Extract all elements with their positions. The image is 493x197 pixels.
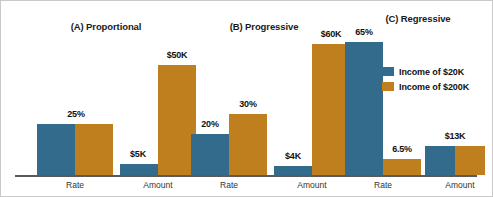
bar-label-b-amount-income20k: $4K (263, 151, 323, 161)
bar-label-c-rate-income200k: 6.5% (372, 144, 432, 154)
x-axis-baseline (15, 175, 477, 177)
bar-c-amount-income200k (455, 146, 485, 175)
bar-a-amount-income20k (120, 164, 158, 175)
bar-c-rate-income200k (383, 159, 421, 175)
legend-swatch-icon-income200k (382, 82, 394, 91)
tick-label-b-amount: Amount (282, 180, 342, 190)
bar-label-c-rate-income20k: 65% (334, 27, 394, 37)
bar-b-rate-income20k (191, 134, 229, 175)
tick-label-c-amount: Amount (430, 180, 490, 190)
bar-b-amount-income20k (274, 166, 312, 175)
bar-c-rate-income20k (345, 42, 383, 175)
tick-label-a-rate: Rate (45, 180, 105, 190)
bar-label-a-amount-income200k: $50K (147, 50, 207, 60)
tick-label-c-rate: Rate (353, 180, 413, 190)
tick-label-a-amount: Amount (128, 180, 188, 190)
bar-label-b-rate-income20k: 20% (180, 119, 240, 129)
bar-a-rate-income20k (37, 124, 75, 175)
chart-legend: Income of $20K Income of $200K (382, 65, 469, 95)
legend-item-income20k: Income of $20K (382, 65, 469, 78)
bar-label-c-amount: $13K (425, 131, 485, 141)
plot-area: 25% $5K $50K 20% 30% $4K $60K 65% 6.5% $… (1, 1, 492, 196)
bar-label-a-rate: 25% (46, 109, 106, 119)
bar-label-a-amount-income20k: $5K (108, 149, 168, 159)
legend-label-income20k: Income of $20K (399, 67, 464, 77)
bar-c-amount-income20k (425, 146, 455, 175)
tick-label-b-rate: Rate (199, 180, 259, 190)
legend-label-income200k: Income of $200K (399, 82, 469, 92)
tax-structure-bar-chart-figure: (A) Proportional (B) Progressive (C) Reg… (0, 0, 493, 197)
legend-swatch-icon-income20k (382, 67, 394, 76)
bar-label-b-rate-income200k: 30% (218, 99, 278, 109)
legend-item-income200k: Income of $200K (382, 80, 469, 93)
